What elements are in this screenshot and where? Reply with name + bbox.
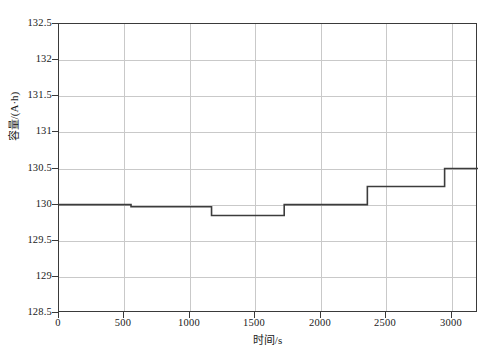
y-axis-tick-label: 130	[2, 198, 52, 209]
y-axis-tick-label: 129	[2, 270, 52, 281]
y-axis-tick-label-wrap: 130	[0, 198, 52, 209]
y-axis-tick-label: 130.5	[2, 162, 52, 173]
x-axis-tick-label: 1000	[167, 317, 211, 329]
y-axis-tick-label: 132	[2, 53, 52, 64]
y-axis-tick-label: 132.5	[2, 17, 52, 28]
x-axis-title: 时间/s	[58, 334, 477, 347]
x-axis-tick-label: 2000	[298, 317, 342, 329]
y-axis-tick-label-wrap: 128.5	[0, 306, 52, 317]
y-axis-tick-label: 131	[2, 125, 52, 136]
y-axis-tick-label: 131.5	[2, 89, 52, 100]
x-axis-tick-label: 1500	[232, 317, 276, 329]
y-axis-tick-label-wrap: 131	[0, 125, 52, 136]
y-axis-tick-label-wrap: 131.5	[0, 89, 52, 100]
y-axis-tick-label: 128.5	[2, 306, 52, 317]
y-axis-tick-label-wrap: 132.5	[0, 17, 52, 28]
x-axis-tick-label: 2500	[363, 317, 407, 329]
x-axis-tick-label: 0	[36, 317, 80, 329]
x-axis-tick-label: 3000	[429, 317, 473, 329]
chart-container: 容量/(A·h) 128.5129129.5130130.5131131.513…	[0, 0, 503, 360]
data-series-layer	[59, 24, 478, 313]
capacity-step-line	[59, 169, 478, 216]
y-axis-title: 容量/(A·h)	[8, 57, 21, 177]
x-axis-tick-label: 500	[101, 317, 145, 329]
y-axis-tick-label-wrap: 129	[0, 270, 52, 281]
y-axis-tick-label-wrap: 132	[0, 53, 52, 64]
y-axis-tick-label: 129.5	[2, 234, 52, 245]
y-axis-tick-label-wrap: 129.5	[0, 234, 52, 245]
y-axis-tick-label-wrap: 130.5	[0, 162, 52, 173]
plot-area	[58, 23, 477, 312]
